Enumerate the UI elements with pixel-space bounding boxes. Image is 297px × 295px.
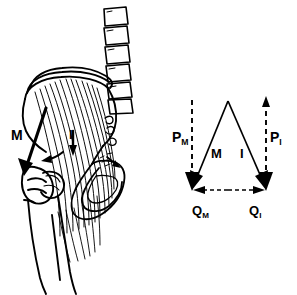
label-q-i-base: Q [249, 203, 259, 218]
vector-m [190, 101, 228, 190]
vector-q-i [228, 186, 265, 194]
label-anatomy-m: M [11, 128, 23, 142]
label-p-m-subscript: M [181, 137, 188, 147]
label-q-m-base: Q [192, 203, 202, 218]
label-p-m: PM [172, 130, 189, 144]
label-p-i-base: P [270, 129, 279, 145]
figure-root: PM PI M I QM QI M I [0, 0, 297, 295]
label-i: I [240, 147, 244, 160]
label-q-m: QM [192, 204, 209, 217]
label-m: M [211, 147, 222, 160]
vector-q-m [193, 186, 228, 194]
label-p-i-subscript: I [279, 137, 281, 147]
label-p-i: PI [270, 130, 282, 144]
vector-i [228, 101, 268, 190]
label-q-i: QI [249, 204, 261, 217]
label-q-m-subscript: M [202, 211, 209, 220]
label-p-m-base: P [172, 129, 181, 145]
force-diagram [0, 0, 297, 295]
label-anatomy-i: I [69, 128, 73, 141]
